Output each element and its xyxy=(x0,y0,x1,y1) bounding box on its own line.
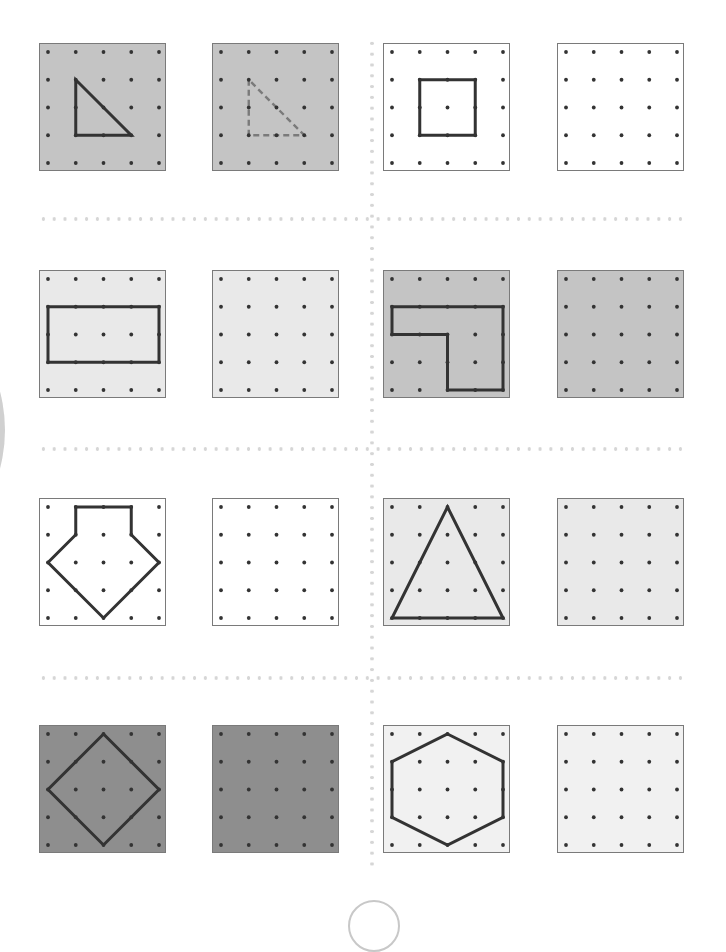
board-r3-c1 xyxy=(39,498,166,626)
geoboard-dots-icon xyxy=(558,499,683,625)
row-separator-2 xyxy=(38,447,688,451)
board-r4-c4 xyxy=(557,725,684,853)
geoboard-dots-icon xyxy=(558,271,683,397)
page-edge-arc xyxy=(0,290,5,570)
geoboard-dots-icon xyxy=(384,726,509,852)
geoboard-dots-icon xyxy=(384,271,509,397)
board-r1-c2 xyxy=(212,43,339,171)
board-r2-c2 xyxy=(212,270,339,398)
geoboard-dots-icon xyxy=(40,271,165,397)
board-r1-c4 xyxy=(557,43,684,171)
geoboard-dots-icon xyxy=(384,499,509,625)
board-r2-c4 xyxy=(557,270,684,398)
board-r1-c1 xyxy=(39,43,166,171)
geoboard-dots-icon xyxy=(40,726,165,852)
geoboard-dots-icon xyxy=(213,44,338,170)
board-r3-c3 xyxy=(383,498,510,626)
board-r3-c4 xyxy=(557,498,684,626)
board-r1-c3 xyxy=(383,43,510,171)
geoboard-dots-icon xyxy=(40,44,165,170)
board-r4-c3 xyxy=(383,725,510,853)
row-separator-3 xyxy=(38,676,688,680)
board-r3-c2 xyxy=(212,498,339,626)
board-r4-c1 xyxy=(39,725,166,853)
page-number-badge xyxy=(348,900,400,952)
geoboard-dots-icon xyxy=(213,271,338,397)
column-separator xyxy=(370,38,374,868)
row-separator-1 xyxy=(38,217,688,221)
geoboard-dots-icon xyxy=(213,499,338,625)
geoboard-dots-icon xyxy=(558,726,683,852)
geoboard-dots-icon xyxy=(213,726,338,852)
geoboard-dots-icon xyxy=(558,44,683,170)
geoboard-dots-icon xyxy=(40,499,165,625)
l-shape-shape xyxy=(392,307,503,390)
geoboard-dots-icon xyxy=(384,44,509,170)
board-r2-c1 xyxy=(39,270,166,398)
board-r4-c2 xyxy=(212,725,339,853)
board-r2-c3 xyxy=(383,270,510,398)
